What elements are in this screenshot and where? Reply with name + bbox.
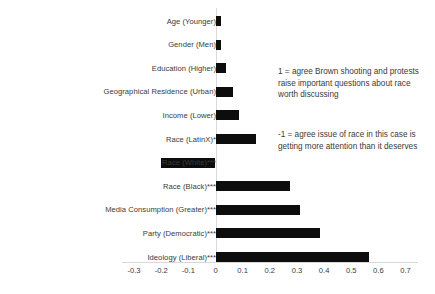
category-label: Race (Black)***	[163, 182, 216, 192]
bar	[216, 110, 239, 120]
category-label: Party (Democratic)***	[143, 229, 216, 239]
category-label: Race (LatinX)*	[166, 135, 216, 145]
category-label: Education (Higher)	[152, 64, 216, 74]
x-axis-line	[122, 262, 418, 263]
category-label: Ideology (Liberal)***	[147, 253, 216, 263]
bar	[216, 228, 321, 238]
annotation-negative: -1 = agree issue of race in this case is…	[278, 129, 430, 152]
category-label: Race (White)***	[162, 158, 216, 168]
bar	[216, 205, 300, 215]
bar-chart: Age (Younger)Gender (Men)Education (High…	[0, 0, 435, 294]
annotation-positive: 1 = agree Brown shooting and protests ra…	[278, 66, 430, 101]
bar	[216, 63, 227, 73]
bar	[216, 87, 234, 97]
bar	[216, 16, 221, 26]
bar	[216, 252, 369, 262]
bar	[216, 181, 291, 191]
category-label: Income (Lower)	[163, 111, 216, 121]
category-label: Media Consumption (Greater)***	[105, 205, 216, 215]
bar	[216, 40, 221, 50]
x-tick-label: 0.7	[386, 266, 426, 276]
bar	[216, 134, 257, 144]
category-label: Geographical Residence (Urban)	[103, 87, 216, 97]
category-label: Age (Younger)	[167, 17, 216, 27]
category-label: Gender (Men)	[168, 40, 216, 50]
